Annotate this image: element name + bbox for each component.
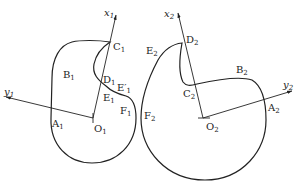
x2-axis <box>178 13 203 118</box>
b2-label: B2 <box>236 64 248 77</box>
d2-label: D2 <box>186 34 199 47</box>
right-profile-curve <box>141 43 266 180</box>
e2-label: E2 <box>146 45 158 58</box>
left-profile: x1 y1 O1 A1 B1 C1 D1 E′1 E1 F1 <box>3 7 136 163</box>
f1-label: F1 <box>120 105 131 118</box>
b1-label: B1 <box>63 69 75 82</box>
e1-prime-label: E′1 <box>117 82 131 95</box>
c2-label: C2 <box>183 88 195 101</box>
a2-label: A2 <box>267 102 280 115</box>
right-profile: x2 y2 O2 A2 B2 C2 D2 E2 F2 <box>141 8 294 180</box>
y2-label: y2 <box>282 79 294 92</box>
a1-label: A1 <box>51 118 64 131</box>
x1-label: x1 <box>104 7 114 20</box>
f2-label: F2 <box>144 110 155 123</box>
y1-axis <box>6 97 93 118</box>
c1-label: C1 <box>113 41 125 54</box>
cam-diagram: x1 y1 O1 A1 B1 C1 D1 E′1 E1 F1 x2 y2 O2 … <box>0 0 296 184</box>
x2-label: x2 <box>164 8 175 21</box>
e1-label: E1 <box>103 92 115 105</box>
o1-label: O1 <box>94 123 107 136</box>
y1-label: y1 <box>3 86 14 99</box>
o2-label: O2 <box>206 121 219 134</box>
left-profile-curve <box>51 41 136 164</box>
